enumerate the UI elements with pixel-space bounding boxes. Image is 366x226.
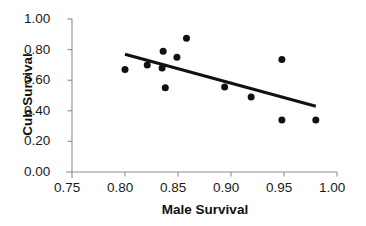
data-point <box>278 116 285 123</box>
x-tick-label: 0.80 <box>107 180 133 195</box>
data-point <box>248 94 255 101</box>
x-tick-label: 0.75 <box>54 180 80 195</box>
data-point <box>278 56 285 63</box>
x-axis-title: Male Survival <box>120 202 290 217</box>
y-tick-marks <box>66 19 72 172</box>
x-tick-label: 0.95 <box>266 180 292 195</box>
y-tick-label: 1.00 <box>24 11 50 26</box>
data-point <box>183 35 190 42</box>
data-point <box>159 64 166 71</box>
y-tick-label: 0.00 <box>24 164 50 179</box>
data-point <box>173 54 180 61</box>
data-point <box>122 66 129 73</box>
data-point <box>221 84 228 91</box>
axis-lines <box>72 19 337 172</box>
data-point <box>162 84 169 91</box>
x-tick-label: 1.00 <box>319 180 345 195</box>
data-point <box>312 116 319 123</box>
data-point <box>160 48 167 55</box>
y-axis-title: Cub Survival <box>20 35 35 155</box>
x-tick-marks <box>72 172 337 178</box>
x-tick-label: 0.85 <box>160 180 186 195</box>
trend-line <box>125 54 316 106</box>
scatter-chart: 0.00 0.20 0.40 0.60 0.80 1.00 0.75 0.80 … <box>0 0 366 226</box>
data-point <box>144 61 151 68</box>
x-tick-label: 0.90 <box>213 180 239 195</box>
